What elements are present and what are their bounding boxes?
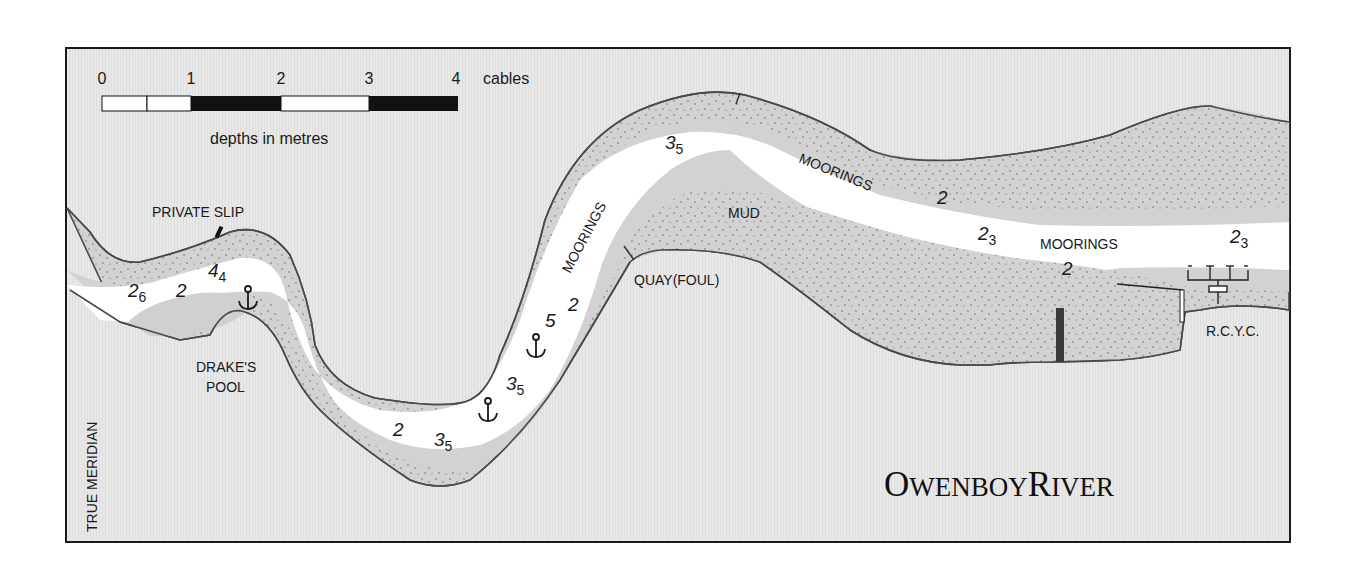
scale-tick-2: 2	[277, 70, 286, 87]
scale-tick-0: 0	[98, 70, 107, 87]
sounding: 2	[1061, 258, 1073, 279]
sounding: 2	[567, 294, 579, 315]
label-drakes-pool-2: POOL	[206, 379, 245, 395]
label-moorings-3: MOORINGS	[1040, 236, 1118, 252]
true-meridian-label: TRUE MERIDIAN	[84, 422, 100, 532]
chart-map: 0 1 2 3 4 cables depths in metres PRIVAT…	[0, 0, 1355, 580]
scale-tick-3: 3	[365, 70, 374, 87]
label-drakes-pool-1: DRAKE'S	[196, 359, 256, 375]
scale-unit: cables	[483, 70, 529, 87]
sounding: 2	[392, 419, 404, 440]
depth-note: depths in metres	[210, 130, 328, 147]
sounding: 2	[936, 187, 948, 208]
label-rcyc: R.C.Y.C.	[1206, 323, 1259, 339]
sounding: 5	[545, 310, 556, 331]
scale-tick-4: 4	[452, 70, 461, 87]
jetty-post	[1180, 290, 1184, 322]
slipway-hatch	[1056, 308, 1064, 362]
sounding: 2	[175, 280, 187, 301]
label-private-slip: PRIVATE SLIP	[152, 204, 244, 220]
label-mud: MUD	[728, 205, 760, 221]
label-quay: QUAY(FOUL)	[634, 272, 719, 288]
scale-tick-1: 1	[187, 70, 196, 87]
